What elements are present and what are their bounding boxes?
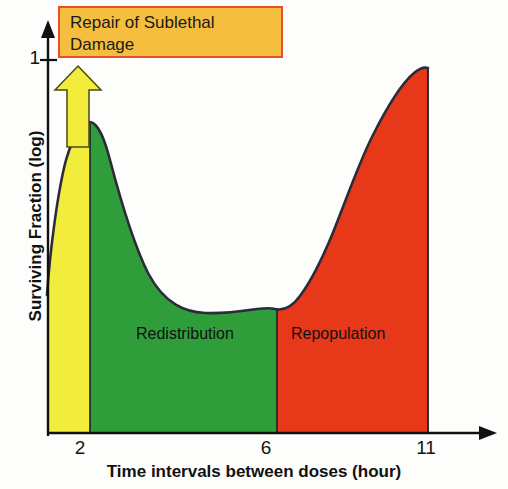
- region-redistribution: [90, 60, 277, 433]
- callout-line-2: Damage: [70, 35, 134, 54]
- x-axis-tick-label-2: 2: [66, 437, 94, 459]
- x-axis-tick-label-11: 11: [408, 437, 444, 459]
- y-axis-arrowhead: [41, 20, 55, 38]
- region-label-redistribution: Redistribution: [136, 325, 234, 343]
- callout-line-1: Repair of Sublethal: [70, 13, 215, 32]
- x-axis-arrowhead: [479, 426, 497, 440]
- y-axis-title: Surviving Fraction (log): [26, 96, 46, 356]
- y-axis-tick-label-1: 1: [14, 47, 40, 69]
- chart-canvas: [0, 0, 508, 489]
- x-axis-title: Time intervals between doses (hour): [0, 462, 508, 482]
- region-bands: [46, 60, 429, 433]
- callout-box: Repair of Sublethal Damage: [58, 6, 283, 58]
- chart-figure: Repair of Sublethal Damage Redistributio…: [0, 0, 508, 489]
- region-label-repopulation: Repopulation: [291, 325, 385, 343]
- x-axis-tick-label-6: 6: [252, 437, 280, 459]
- callout-text: Repair of Sublethal Damage: [70, 12, 273, 56]
- region-repopulation: [277, 60, 429, 433]
